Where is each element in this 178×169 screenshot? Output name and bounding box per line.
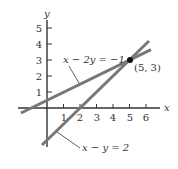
- y-axis-label: y: [43, 8, 50, 19]
- svg-text:3: 3: [36, 55, 42, 66]
- svg-text:5: 5: [36, 23, 42, 34]
- svg-text:5: 5: [127, 112, 133, 123]
- svg-text:1: 1: [36, 87, 42, 98]
- label-line2: x − y = 2: [82, 142, 129, 153]
- leader-line2: [57, 132, 80, 148]
- svg-text:6: 6: [143, 112, 149, 123]
- y-tick-labels: 1 2 3 4 5: [36, 23, 42, 98]
- label-line1: x − 2y = −1: [63, 54, 125, 65]
- x-axis-label: x: [164, 102, 170, 113]
- svg-text:3: 3: [94, 112, 100, 123]
- y-ticks: [47, 28, 52, 92]
- svg-text:2: 2: [36, 71, 42, 82]
- point-label: (5, 3): [134, 62, 161, 73]
- leader-line1: [69, 66, 79, 83]
- chart: x y 1 2 3 4 5 6 1 2 3 4 5 x − 2y = −1: [0, 0, 178, 169]
- svg-text:2: 2: [77, 112, 83, 123]
- svg-text:4: 4: [110, 112, 116, 123]
- svg-text:4: 4: [36, 39, 42, 50]
- intersection-point: [127, 57, 133, 63]
